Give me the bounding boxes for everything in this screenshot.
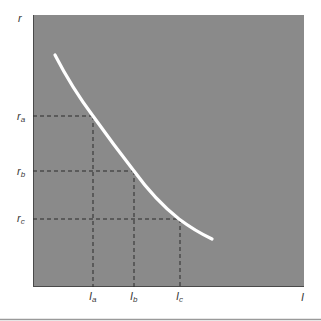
y-axis-label: r bbox=[18, 12, 23, 24]
tick-label-ic: Ic bbox=[176, 290, 183, 304]
tick-label-ib: Ib bbox=[130, 290, 138, 304]
tick-label-rb: rb bbox=[17, 165, 26, 179]
x-axis-label: I bbox=[301, 291, 304, 303]
tick-label-ra: ra bbox=[17, 110, 26, 124]
tick-label-rc: rc bbox=[17, 212, 25, 226]
plot-area bbox=[33, 15, 304, 287]
tick-label-ia: Ia bbox=[89, 290, 97, 304]
chart: r I ra rb rc Ia Ib Ic bbox=[0, 0, 321, 321]
